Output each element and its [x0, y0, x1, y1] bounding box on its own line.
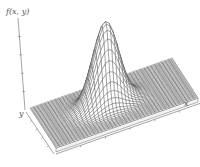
- surface-plot: [0, 0, 200, 167]
- z-axis-label: f(x, y): [6, 8, 29, 16]
- x-axis-label: x: [184, 100, 189, 108]
- y-axis-label: y: [19, 110, 24, 118]
